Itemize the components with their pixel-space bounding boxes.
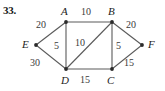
graph-edge-e-d: [36, 45, 66, 69]
graph-node-b: [110, 20, 114, 24]
graph-edge-d-b: [66, 22, 112, 69]
edge-weight-a-b: 10: [81, 7, 91, 17]
node-label-c: C: [107, 75, 114, 86]
edge-weight-c-f: 15: [124, 58, 134, 68]
edge-weight-d-b: 10: [75, 38, 85, 48]
graph-figure-container: 33. 1020205105301515ABEFDC: [0, 0, 165, 91]
node-label-d: D: [61, 75, 69, 86]
graph-node-e: [34, 43, 38, 47]
node-label-a: A: [61, 6, 68, 17]
edge-weight-e-d: 30: [30, 58, 40, 68]
node-label-f: F: [148, 39, 155, 50]
edge-weight-b-c: 5: [116, 41, 121, 51]
graph-node-a: [64, 20, 68, 24]
edge-weight-d-c: 15: [80, 75, 90, 85]
edge-weight-a-d: 5: [54, 41, 59, 51]
node-label-e: E: [22, 39, 29, 50]
graph-node-d: [64, 67, 68, 71]
edge-weight-e-a: 20: [36, 20, 46, 30]
edge-weight-b-f: 20: [126, 20, 136, 30]
graph-node-f: [140, 43, 144, 47]
graph-node-c: [110, 67, 114, 71]
node-label-b: B: [108, 6, 115, 17]
